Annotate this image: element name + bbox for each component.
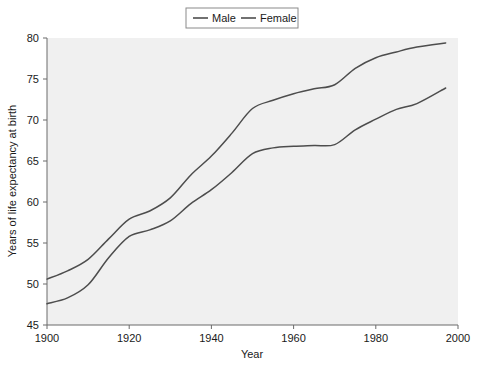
chart-legend: Male Female — [186, 8, 298, 28]
legend-label-female: Female — [260, 12, 297, 24]
x-axis-title: Year — [241, 348, 264, 360]
y-tick-label: 80 — [27, 32, 39, 44]
x-tick-label: 2000 — [446, 332, 470, 344]
y-tick-label: 60 — [27, 196, 39, 208]
x-tick-label: 1920 — [117, 332, 141, 344]
x-tick-label: 1960 — [281, 332, 305, 344]
y-tick-label: 45 — [27, 319, 39, 331]
x-tick-label: 1940 — [199, 332, 223, 344]
life-expectancy-line-chart: 4550556065707580 19001920194019601980200… — [0, 0, 482, 369]
plot-area-background — [47, 38, 458, 325]
y-tick-label: 50 — [27, 278, 39, 290]
y-axis-title: Years of life expectancy at birth — [6, 105, 18, 257]
x-tick-label: 1980 — [364, 332, 388, 344]
legend-label-male: Male — [212, 12, 236, 24]
chart-figure: 4550556065707580 19001920194019601980200… — [0, 0, 482, 369]
y-tick-label: 65 — [27, 155, 39, 167]
y-tick-label: 70 — [27, 114, 39, 126]
y-tick-label: 55 — [27, 237, 39, 249]
y-tick-label: 75 — [27, 73, 39, 85]
x-tick-label: 1900 — [35, 332, 59, 344]
